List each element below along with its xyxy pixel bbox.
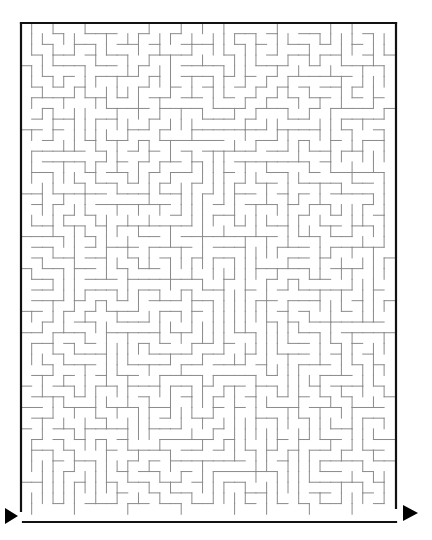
maze-border bbox=[21, 23, 396, 522]
maze-walls bbox=[21, 23, 395, 514]
maze-grid bbox=[0, 0, 432, 540]
end-arrow-icon bbox=[403, 505, 418, 521]
start-arrow-icon bbox=[5, 508, 18, 524]
